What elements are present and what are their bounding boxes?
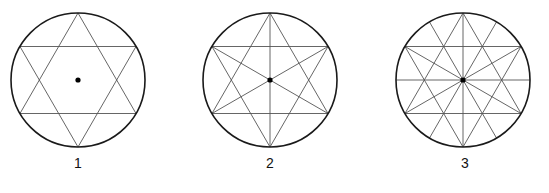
triangle-down (20, 47, 136, 148)
center-dot (267, 77, 272, 82)
figure-1-label: 1 (74, 155, 82, 171)
figure-2-label: 2 (266, 155, 274, 171)
figure-3 (396, 13, 530, 147)
figure-1 (11, 13, 145, 147)
figure-2 (203, 13, 337, 147)
center-dot (460, 77, 465, 82)
figure-3-label: 3 (461, 155, 469, 171)
triangle-up (20, 13, 136, 114)
figure-canvas: 1 2 3 (0, 0, 549, 193)
center-dot (75, 77, 80, 82)
